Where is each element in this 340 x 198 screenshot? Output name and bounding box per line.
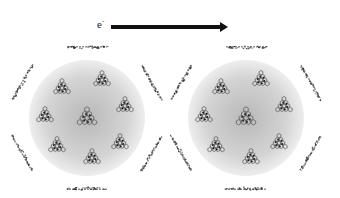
edge-on-fragment [299, 135, 322, 171]
left-sphere [10, 46, 163, 191]
right-sphere [169, 45, 323, 190]
edge-on-fragment [225, 187, 266, 191]
edge-on-fragment [226, 45, 267, 49]
edge-on-fragment [299, 64, 323, 101]
edge-on-fragment [139, 135, 162, 172]
edge-on-fragment [67, 46, 108, 50]
edge-on-fragment [170, 64, 194, 101]
electron-transfer-arrow [111, 22, 228, 32]
edge-on-fragment [169, 134, 193, 172]
edge-on-fragment [140, 65, 163, 102]
sphere-body [29, 60, 145, 176]
edge-on-fragment [67, 187, 107, 191]
edge-on-fragment [11, 63, 35, 101]
sphere-body [188, 60, 304, 176]
diagram-canvas [0, 0, 340, 198]
electron-transfer-diagram: e- [0, 0, 340, 198]
edge-on-fragment [10, 134, 34, 172]
